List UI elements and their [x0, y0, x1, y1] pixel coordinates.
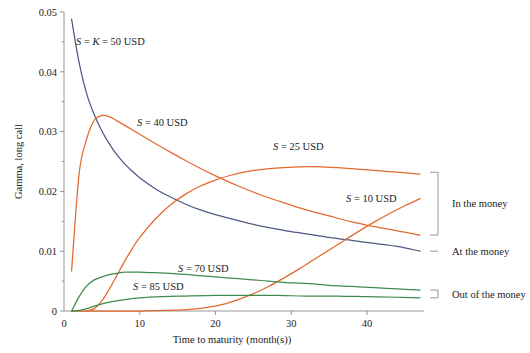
- x-tick-label: 0: [61, 318, 66, 329]
- gamma-long-call-chart: 00.010.020.030.040.05010203040 S = K = 5…: [0, 0, 530, 353]
- series-label-10-usd: S = 10 USD: [346, 193, 397, 204]
- chart-canvas: 00.010.020.030.040.05010203040 S = K = 5…: [0, 0, 530, 353]
- annotation-at-the-money-label: At the money: [452, 246, 510, 257]
- x-tick-label: 30: [286, 318, 297, 329]
- curve-s-70-usd: [72, 272, 420, 311]
- y-tick-label: 0.03: [39, 126, 57, 137]
- y-tick-label: 0.05: [39, 7, 57, 18]
- y-tick-label: 0: [52, 306, 57, 317]
- series-label-50-usd: S = K = 50 USD: [76, 36, 145, 47]
- series-label-85-usd: S = 85 USD: [133, 281, 184, 292]
- series-label-25-usd: S = 25 USD: [273, 141, 324, 152]
- axes: 00.010.020.030.040.05010203040: [39, 7, 424, 329]
- curve-s-k-50-usd: [72, 19, 420, 251]
- x-tick-label: 10: [134, 318, 145, 329]
- x-tick-label: 20: [210, 318, 221, 329]
- x-tick-label: 40: [362, 318, 373, 329]
- series-label-40-usd: S = 40 USD: [137, 117, 188, 128]
- curve-s-10-usd: [72, 199, 420, 311]
- series-label-70-usd: S = 70 USD: [178, 263, 229, 274]
- curve-s-85-usd: [72, 295, 420, 311]
- series-curves: [72, 19, 420, 311]
- annotation-out-of-the-money-bracket: [430, 290, 438, 298]
- x-axis-title: Time to maturity (month(s)): [173, 334, 292, 346]
- y-tick-label: 0.04: [39, 67, 58, 78]
- y-axis-title: Gamma, long call: [13, 124, 24, 199]
- y-tick-label: 0.01: [39, 246, 57, 257]
- group-annotations: In the moneyAt the moneyOut of the money: [430, 172, 527, 299]
- annotation-in-the-money-label: In the money: [452, 198, 508, 209]
- y-tick-label: 0.02: [39, 186, 57, 197]
- annotation-in-the-money-bracket: [430, 172, 438, 235]
- annotation-out-of-the-money-label: Out of the money: [452, 289, 527, 300]
